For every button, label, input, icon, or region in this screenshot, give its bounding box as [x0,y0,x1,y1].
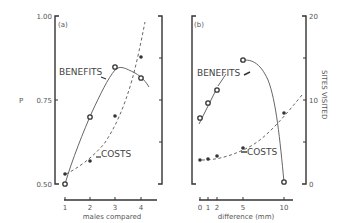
x-axis-label: difference (mm) [218,213,275,221]
x-tick-label: 2 [215,204,219,212]
cost-point [63,172,67,176]
benefit-point [139,76,143,80]
y-axis-label-right: SITES VISITED [320,70,328,119]
x-tick-label: 5 [241,204,245,212]
cost-point [88,159,92,163]
y-axis-label: P [19,97,23,105]
y-tick-label: 1.00 [36,13,52,21]
y-tick-label: 20 [309,13,318,21]
x-tick-label: 0 [198,204,202,212]
benefit-point [198,116,202,120]
cost-point [139,55,143,59]
x-tick-label: 4 [139,204,144,212]
cost-point [215,154,219,158]
cost-point [206,157,210,161]
y-tick-label: 0 [309,181,313,189]
panel-label: (b) [194,21,204,29]
x-tick-label: 10 [280,204,289,212]
panel-b: 20 10 0 SITES VISITED (b) 0 1 2 5 10 dif… [192,13,328,222]
costs-annotation: COSTS [101,149,132,159]
cost-point [241,146,245,150]
costs-annotation: COSTS [247,147,278,157]
cost-point [198,158,202,162]
benefit-point [88,115,92,119]
arrow-icon [244,72,250,75]
benefit-point [113,65,117,69]
panel-a: 1.00 0.75 0.50 P (a) 1 2 3 4 males compa… [19,13,162,222]
benefit-point [206,101,210,105]
x-tick-label: 3 [113,204,117,212]
x-tick-label: 1 [206,204,210,212]
benefits-annotation: BENEFITS [197,68,241,78]
x-tick-label: 2 [88,204,92,212]
panel-label: (a) [58,21,68,29]
x-tick-label: 1 [63,204,67,212]
benefit-point [215,88,219,92]
benefit-point [63,182,67,186]
y-tick-label: 10 [309,97,318,105]
panel-b-left-axis [192,16,196,184]
benefits-annotation: BENEFITS [59,67,103,77]
cost-point [282,111,286,115]
cost-point [113,114,117,118]
y-tick-label: 0.75 [36,97,52,105]
y-tick-label: 0.50 [36,181,52,189]
benefit-point [241,58,245,62]
x-axis-label: males compared [83,213,141,221]
figure: 1.00 0.75 0.50 P (a) 1 2 3 4 males compa… [0,0,340,223]
benefit-point [282,180,286,184]
benefits-curve [240,60,284,182]
benefits-curve [65,67,149,184]
arrow-icon [101,77,106,79]
